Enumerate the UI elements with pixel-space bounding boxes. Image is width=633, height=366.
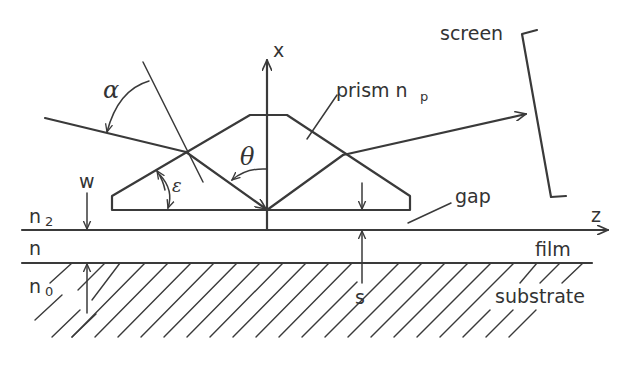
w-label: w [79, 170, 95, 192]
n0-subscript: 0 [45, 284, 53, 299]
n2-label: n [29, 205, 41, 227]
n0-label: n [29, 275, 41, 297]
film-label: film [535, 238, 571, 260]
prism-label: prism n [336, 79, 408, 101]
theta-label: θ [240, 143, 255, 171]
screen [522, 30, 566, 197]
n-label: n [29, 237, 41, 259]
gap-leader [408, 203, 451, 223]
s-label: s [355, 286, 365, 308]
reflected-ray [267, 155, 343, 210]
gap-label: gap [455, 185, 491, 207]
prism-face-normal [143, 62, 203, 182]
prism-label-subscript: p [420, 89, 428, 104]
epsilon-label: ε [172, 175, 182, 196]
x-axis-label: x [273, 39, 284, 61]
n2-subscript: 2 [45, 214, 53, 229]
prism-coupler-diagram: x z screen prism n p gap film substrate … [0, 0, 633, 366]
substrate-label: substrate [495, 285, 585, 307]
z-axis-label: z [591, 204, 601, 226]
alpha-label: α [103, 76, 119, 104]
output-ray [343, 114, 526, 155]
prism [112, 115, 410, 210]
screen-label: screen [440, 22, 503, 44]
incident-ray [45, 118, 186, 152]
prism-leader [307, 95, 337, 139]
